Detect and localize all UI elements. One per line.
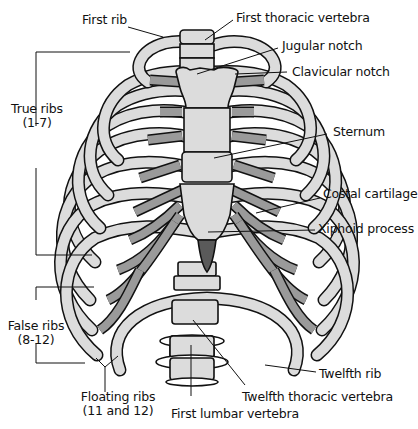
label-xiphoid-process: Xiphoid process: [318, 222, 414, 236]
label-jugular-notch: Jugular notch: [282, 39, 362, 53]
label-true-ribs: True ribs (1-7): [6, 102, 68, 130]
label-floating-ribs: Floating ribs (11 and 12): [70, 390, 166, 418]
label-sternum: Sternum: [333, 125, 385, 139]
label-twelfth-thoracic-vertebra: Twelfth thoracic vertebra: [242, 390, 393, 404]
false-ribs-text: False ribs: [4, 319, 68, 333]
label-clavicular-notch: Clavicular notch: [292, 65, 390, 79]
label-first-rib: First rib: [82, 13, 127, 27]
floating-ribs-text: Floating ribs: [70, 390, 166, 404]
label-costal-cartilage: Costal cartilage: [323, 187, 418, 201]
false-ribs-range: (8-12): [4, 333, 68, 347]
true-ribs-range: (1-7): [6, 116, 68, 130]
sternum: [176, 67, 238, 272]
label-twelfth-rib: Twelfth rib: [319, 367, 381, 381]
label-first-lumbar-vertebra: First lumbar vertebra: [171, 407, 299, 421]
floating-ribs-range: (11 and 12): [70, 404, 166, 418]
label-false-ribs: False ribs (8-12): [4, 319, 68, 347]
label-first-thoracic-vertebra: First thoracic vertebra: [236, 11, 370, 25]
true-ribs-text: True ribs: [6, 102, 68, 116]
